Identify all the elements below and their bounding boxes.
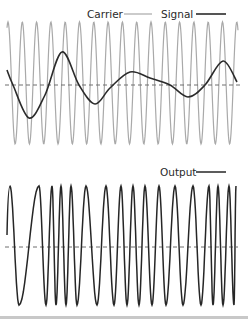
top-panel: Carrier Signal	[5, 8, 240, 144]
legend-carrier-label: Carrier	[87, 8, 124, 20]
carrier-wave	[7, 22, 238, 144]
legend-output-label: Output	[160, 166, 196, 178]
output-wave	[7, 186, 236, 305]
bottom-panel: Output	[5, 166, 238, 305]
legend-signal-label: Signal	[161, 8, 193, 20]
fm-modulation-figure: Carrier Signal Output	[0, 0, 248, 319]
